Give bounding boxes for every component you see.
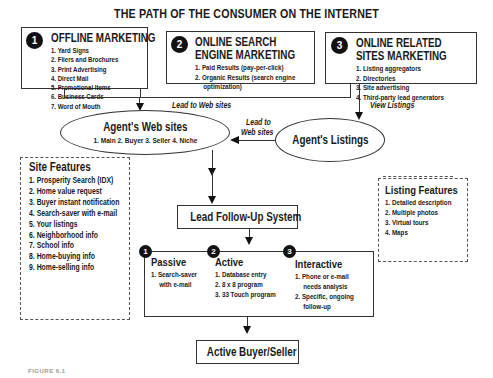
list-item: 8. Home-buying info	[29, 251, 119, 262]
list-item: 1. Listing aggregators	[356, 64, 447, 74]
lead-follow-up-title: Lead Follow-Up System	[190, 210, 301, 224]
list-item: 1. Detailed description	[385, 198, 458, 208]
list-item: 1. Yard Signs	[51, 46, 155, 55]
active-buyer-seller-box: Active Buyer/Seller	[196, 340, 299, 364]
connector-line	[359, 84, 360, 114]
arrow-down-icon	[245, 237, 253, 245]
connector-line	[236, 140, 276, 141]
agents-listings-node: Agent's Listings	[275, 118, 385, 162]
list-item: 2. Directories	[356, 74, 447, 84]
connector-line	[350, 84, 351, 98]
list-item: with e-mail	[151, 280, 197, 290]
active-buyer-seller-title: Active Buyer/Seller	[207, 345, 297, 359]
search-engine-marketing-box: 2 ONLINE SEARCH ENGINE MARKETING 1. Paid…	[166, 31, 315, 84]
list-item: 3. Buyer instant notification	[29, 197, 119, 208]
search-engine-heading-line-2: ENGINE MARKETING	[195, 49, 295, 62]
active-list: 1. Database entry 2. 8 x 8 program 3. 33…	[215, 270, 276, 300]
figure-caption: FIGURE 6.1	[28, 368, 66, 374]
list-item: 1. Paid Results (pay-per-click)	[195, 63, 295, 73]
list-item: 7. School info	[29, 240, 119, 251]
passive-title: Passive	[151, 256, 197, 269]
agents-web-sites-title: Agent's Web sites	[103, 120, 187, 134]
listing-features-connector	[383, 176, 453, 177]
interactive-badge: 3	[283, 245, 296, 258]
lead-to-label-line-1: Lead to	[246, 117, 271, 127]
list-item: 3. Print Advertising	[51, 65, 155, 74]
listing-features-box: Listing Features 1. Detailed description…	[378, 178, 468, 262]
related-sites-marketing-box: 3 ONLINE RELATED SITES MARKETING 1. List…	[325, 32, 477, 84]
list-item: optimization)	[195, 82, 295, 92]
view-listings-label: View Listings	[370, 100, 414, 110]
related-sites-heading-line-2: SITES MARKETING	[356, 50, 447, 63]
list-item: 9. Home-selling info	[29, 262, 119, 273]
search-engine-list: 1. Paid Results (pay-per-click) 2. Organ…	[195, 63, 295, 92]
list-item: 2. 8 x 8 program	[215, 280, 276, 290]
list-item: follow-up	[295, 302, 354, 312]
site-features-box: Site Features 1. Prosperity Search (IDX)…	[20, 157, 130, 320]
list-item: 1. Search-saver	[151, 270, 197, 280]
offline-marketing-heading: OFFLINE MARKETING	[51, 32, 155, 45]
list-item: 1. Database entry	[215, 270, 276, 280]
interactive-list: 1. Phone or e-mail needs analysis 2. Spe…	[295, 272, 354, 312]
arrow-down-icon	[355, 112, 363, 120]
diagram-title: THE PATH OF THE CONSUMER ON THE INTERNET	[44, 6, 448, 21]
list-item: needs analysis	[295, 282, 354, 292]
arrow-down-icon	[243, 326, 251, 334]
arrow-left-icon	[230, 136, 239, 144]
passive-list: 1. Search-saver with e-mail	[151, 270, 197, 290]
offline-marketing-box: 1 OFFLINE MARKETING 1. Yard Signs 2. Fli…	[21, 27, 148, 89]
connector-line	[140, 89, 141, 98]
connector-line	[64, 89, 65, 97]
list-item: 4. Maps	[385, 228, 458, 238]
list-item: 1. Prosperity Search (IDX)	[29, 175, 119, 186]
list-item: 3. Site advertising	[356, 83, 447, 93]
list-item: 2. Multiple photos	[385, 208, 458, 218]
list-item: 4. Search-saver with e-mail	[29, 208, 119, 219]
listing-features-list: 1. Detailed description 2. Multiple phot…	[385, 198, 458, 238]
list-item: 5. Your listings	[29, 219, 119, 230]
follow-up-types-box: 1 Passive 1. Search-saver with e-mail 2 …	[144, 251, 374, 317]
list-item: 4. Direct Mail	[51, 74, 155, 83]
list-item: 2. Fliers and Brochures	[51, 55, 155, 64]
agents-listings-title: Agent's Listings	[292, 133, 368, 147]
list-item: 6. Neighborhood info	[29, 230, 119, 241]
list-item: 3. 33 Touch program	[215, 290, 276, 300]
list-item: 2. Home value request	[29, 186, 119, 197]
list-item: 2. Specific, ongoing	[295, 292, 354, 302]
agents-web-sites-subtitle: 1. Main 2. Buyer 3. Seller 4. Niche	[93, 136, 197, 145]
list-item: 3. Virtual tours	[385, 218, 458, 228]
active-title: Active	[215, 256, 276, 269]
connector-line	[212, 172, 213, 197]
arrow-down-icon	[208, 196, 216, 204]
list-item: 2. Organic Results (search engine	[195, 73, 295, 83]
connector-line	[64, 97, 350, 98]
site-features-title: Site Features	[29, 161, 119, 174]
interactive-title: Interactive	[295, 258, 354, 271]
step-2-badge: 2	[171, 36, 188, 53]
agents-web-sites-node: Agent's Web sites 1. Main 2. Buyer 3. Se…	[60, 110, 230, 155]
lead-follow-up-system-box: Lead Follow-Up System	[177, 205, 298, 229]
lead-to-web-sites-label: Lead to Web sites	[172, 100, 231, 110]
listing-features-title: Listing Features	[385, 184, 458, 197]
related-sites-list: 1. Listing aggregators 2. Directories 3.…	[356, 64, 447, 102]
site-features-list: 1. Prosperity Search (IDX) 2. Home value…	[29, 175, 119, 273]
step-3-badge: 3	[331, 37, 348, 54]
lead-to-label-line-2: Web sites	[241, 127, 273, 137]
step-1-badge: 1	[26, 32, 43, 49]
list-item: 1. Phone or e-mail	[295, 272, 354, 282]
